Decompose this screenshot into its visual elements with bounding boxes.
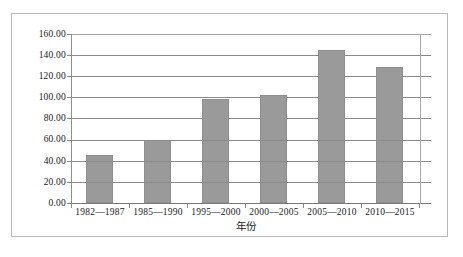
x-axis-label-1995-2000: 1995—2000 <box>187 206 245 218</box>
x-axis-title: 年份 <box>71 220 421 233</box>
y-axis-labels: 160.00 140.00 120.00 100.00 80.00 60.00 … <box>8 0 66 257</box>
x-axis-label-2010-2015: 2010—2015 <box>361 206 419 218</box>
bar-1985-1990 <box>144 140 171 203</box>
gridline-140 <box>71 55 431 56</box>
y-axis-label: 160.00 <box>10 29 66 39</box>
chart-figure: 160.00 140.00 120.00 100.00 80.00 60.00 … <box>0 0 463 257</box>
gridline-20 <box>71 182 431 183</box>
y-axis-label: 80.00 <box>10 113 66 123</box>
x-axis-label-2005-2010: 2005—2010 <box>303 206 361 218</box>
y-axis-label: 20.00 <box>10 177 66 187</box>
y-axis-label: 140.00 <box>10 50 66 60</box>
gridline-40 <box>71 161 431 162</box>
y-axis-label: 40.00 <box>10 156 66 166</box>
bar-2005-2010 <box>318 50 345 203</box>
y-axis-line <box>71 34 72 204</box>
y-axis-label: 120.00 <box>10 71 66 81</box>
x-axis-label-1982-1987: 1982—1987 <box>71 206 129 218</box>
bar-1995-2000 <box>202 99 229 203</box>
x-axis-tick <box>419 204 420 208</box>
gridline-0-baseline <box>71 203 431 204</box>
x-axis-label-2000-2005: 2000—2005 <box>245 206 303 218</box>
bar-1982-1987 <box>86 155 113 203</box>
plot-right-edge <box>420 34 421 204</box>
y-axis-label: 0.00 <box>10 198 66 208</box>
gridline-60 <box>71 140 431 141</box>
x-axis-label-1985-1990: 1985—1990 <box>129 206 187 218</box>
gridline-160 <box>71 34 431 35</box>
y-axis-label: 60.00 <box>10 134 66 144</box>
y-axis-label: 100.00 <box>10 92 66 102</box>
bar-2000-2005 <box>260 95 287 203</box>
